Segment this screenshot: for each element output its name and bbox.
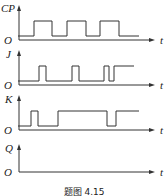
k-time-label: t	[160, 124, 164, 136]
cp-origin-label: O	[4, 34, 12, 46]
j-x-arrow-icon	[149, 83, 155, 87]
cp-time-label: t	[160, 34, 164, 46]
k-origin-label: O	[4, 124, 12, 136]
j-y-arrow-icon	[17, 50, 21, 56]
q-plot: Q O t	[4, 142, 164, 178]
figure-caption: 题图 4.15	[64, 187, 105, 196]
q-time-label: t	[160, 166, 164, 178]
k-waveform	[18, 111, 139, 126]
q-axis-label: Q	[5, 142, 13, 154]
k-x-arrow-icon	[149, 128, 155, 132]
q-x-arrow-icon	[149, 170, 155, 174]
q-origin-label: O	[4, 166, 12, 178]
j-origin-label: O	[4, 79, 12, 91]
k-axis-label: K	[4, 93, 13, 105]
j-plot: J O t	[4, 48, 164, 91]
k-y-arrow-icon	[17, 95, 21, 101]
k-plot: K O t	[4, 93, 164, 136]
q-y-arrow-icon	[17, 144, 21, 150]
j-axis-label: J	[6, 48, 12, 60]
cp-x-arrow-icon	[149, 38, 155, 42]
cp-waveform	[18, 21, 139, 36]
j-time-label: t	[160, 79, 164, 91]
cp-axis-label: CP	[1, 2, 15, 14]
j-waveform	[18, 66, 134, 81]
cp-y-arrow-icon	[17, 5, 21, 11]
cp-plot: CP O t	[1, 2, 164, 46]
